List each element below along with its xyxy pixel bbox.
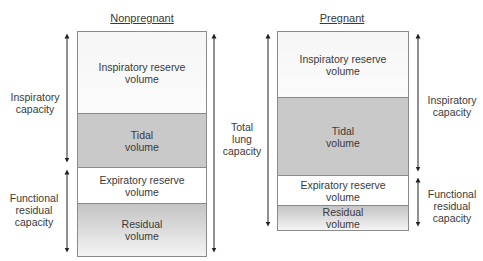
nonpregnant-inspiratory-capacity-label: Inspiratory capacity [6, 91, 64, 115]
total-lung-capacity-label: Total lung capacity [217, 121, 267, 157]
pregnant-frc-label: Functional residual capacity [422, 188, 482, 224]
pregnant-inspiratory-capacity-label: Inspiratory capacity [423, 94, 481, 118]
nonpregnant-frc-label: Functional residual capacity [4, 192, 64, 228]
